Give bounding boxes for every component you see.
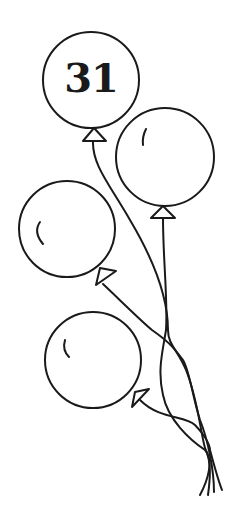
balloon-number-label: 31 bbox=[43, 54, 139, 101]
bottom-balloon bbox=[45, 312, 149, 408]
balloon-illustration: 31 bbox=[0, 0, 232, 527]
right-balloon bbox=[116, 108, 214, 218]
left-balloon bbox=[19, 181, 116, 285]
balloon-strings bbox=[93, 141, 222, 495]
